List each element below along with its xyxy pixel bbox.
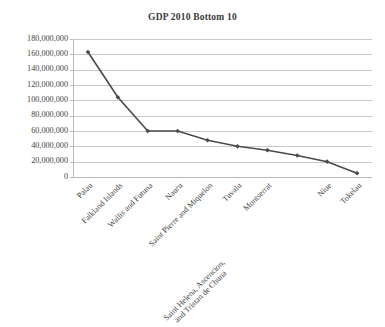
y-axis-tick-label: 0 (0, 172, 68, 181)
gridline (73, 131, 372, 132)
y-axis-tick-mark (70, 70, 73, 71)
gridline (73, 54, 372, 55)
gridline (73, 39, 372, 40)
y-axis-tick-mark (70, 177, 73, 178)
gridline (73, 162, 372, 163)
y-axis-tick-label: 180,000,000 (0, 34, 68, 43)
y-axis-tick-label: 140,000,000 (0, 64, 68, 73)
y-axis-tick-label: 20,000,000 (0, 156, 68, 165)
y-axis-tick-label: 100,000,000 (0, 95, 68, 104)
gridline (73, 177, 372, 178)
y-axis-tick-mark (70, 85, 73, 86)
gridline (73, 70, 372, 71)
y-axis-tick-mark (70, 39, 73, 40)
y-axis-tick-label: 120,000,000 (0, 80, 68, 89)
y-axis-tick-mark (70, 54, 73, 55)
gridline (73, 85, 372, 86)
y-axis-tick-label: 160,000,000 (0, 49, 68, 58)
gridline (73, 100, 372, 101)
y-axis-tick-mark (70, 116, 73, 117)
y-axis-tick-mark (70, 131, 73, 132)
chart-title: GDP 2010 Bottom 10 (0, 12, 385, 22)
y-axis-tick-mark (70, 146, 73, 147)
y-axis-tick-label: 40,000,000 (0, 141, 68, 150)
plot-area (73, 39, 372, 177)
y-axis-tick-mark (70, 162, 73, 163)
gridline (73, 146, 372, 147)
y-axis-tick-mark (70, 100, 73, 101)
y-axis-tick-label: 60,000,000 (0, 126, 68, 135)
gridline (73, 116, 372, 117)
y-axis-tick-label: 80,000,000 (0, 110, 68, 119)
